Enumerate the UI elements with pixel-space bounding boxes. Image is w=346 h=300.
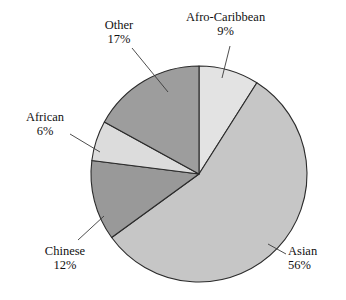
- slice-label-other-name: Other: [88, 18, 150, 32]
- slice-label-chinese: Chinese 12%: [30, 244, 100, 272]
- slice-label-african-value: 6%: [14, 124, 76, 138]
- slice-label-asian-name: Asian: [288, 244, 342, 258]
- slice-label-other: Other 17%: [88, 18, 150, 46]
- pie-chart-figure: Afro-Caribbean 9% Other 17% African 6% C…: [0, 0, 346, 300]
- slice-label-other-value: 17%: [88, 32, 150, 46]
- pie-slices-group: [91, 66, 307, 282]
- slice-label-chinese-value: 12%: [30, 258, 100, 272]
- slice-label-afro-caribbean-value: 9%: [186, 24, 265, 38]
- slice-label-african-name: African: [14, 110, 76, 124]
- slice-label-afro-caribbean: Afro-Caribbean 9%: [186, 10, 265, 38]
- slice-label-asian: Asian 56%: [288, 244, 342, 272]
- slice-label-african: African 6%: [14, 110, 76, 138]
- slice-label-chinese-name: Chinese: [30, 244, 100, 258]
- leader-line-chinese: [78, 216, 104, 240]
- slice-label-asian-value: 56%: [288, 258, 342, 272]
- slice-label-afro-caribbean-name: Afro-Caribbean: [186, 10, 265, 24]
